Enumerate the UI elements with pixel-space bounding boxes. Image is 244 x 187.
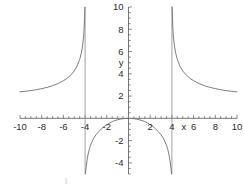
y-tick-label: -2 [115, 135, 123, 146]
x-tick-label: -6 [59, 121, 67, 132]
x-tick-label: 10 [232, 121, 243, 132]
y-tick-label: -4 [115, 157, 123, 168]
x-tick-label: -8 [37, 121, 45, 132]
axes-layer [20, 7, 237, 174]
x-tick-label: 8 [213, 121, 218, 132]
plot-canvas: -10-8-6-4-2246810-4-2246810 xy [0, 0, 244, 187]
x-tick-label: -4 [81, 121, 89, 132]
curve-left-branch [20, 7, 85, 92]
x-tick-label: 4 [169, 121, 174, 132]
y-tick-label: 4 [118, 68, 123, 79]
y-axis-label: y [119, 57, 124, 68]
x-axis-label: x [181, 121, 186, 132]
y-tick-label: 2 [118, 90, 123, 101]
caption-fragment: 1 [64, 178, 68, 186]
y-tick-label: 10 [113, 1, 124, 12]
x-tick-label: -2 [103, 121, 111, 132]
x-tick-label: 6 [191, 121, 196, 132]
curve-right-branch [172, 7, 237, 92]
y-tick-label: 8 [118, 24, 123, 35]
x-tick-label: -10 [13, 121, 27, 132]
x-tick-label: 2 [148, 121, 153, 132]
y-tick-label: 6 [118, 46, 123, 57]
function-plot: -10-8-6-4-2246810-4-2246810 xy 1 [0, 0, 244, 187]
tick-labels-layer: -10-8-6-4-2246810-4-2246810 [13, 1, 242, 168]
